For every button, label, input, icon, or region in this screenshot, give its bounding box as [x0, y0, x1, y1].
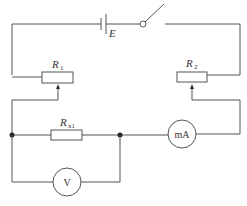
voltmeter-label: V: [63, 177, 71, 188]
r2-label: R: [185, 57, 193, 69]
wire-voltmeter-right: [81, 135, 120, 182]
wire-top-right: [165, 24, 240, 75]
rx1-label: R: [59, 116, 67, 128]
r1-label: R: [51, 58, 59, 70]
rx1-subscript: x1: [68, 122, 76, 130]
rheostat-r2-icon: [177, 72, 207, 82]
switch-icon: [140, 4, 164, 27]
circuit-diagram: E R 1 R 2 R x1 mA V: [0, 0, 247, 206]
r1-subscript: 1: [60, 64, 64, 72]
battery-icon: [101, 14, 106, 34]
wire-voltmeter-left: [12, 135, 53, 182]
r2-subscript: 2: [194, 63, 198, 71]
wire-r2-slider: [192, 100, 240, 134]
ammeter-label: mA: [175, 129, 191, 140]
r1-slider-arrow-icon: [56, 84, 60, 100]
battery-label: E: [108, 27, 116, 39]
r2-slider-arrow-icon: [190, 84, 194, 100]
resistor-rx1-icon: [51, 130, 82, 140]
rheostat-r1-icon: [42, 72, 73, 83]
